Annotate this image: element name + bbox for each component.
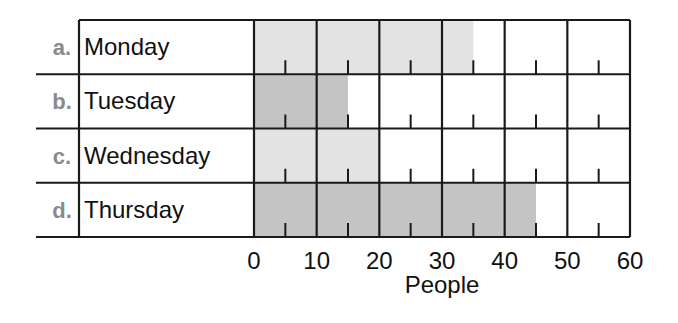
- row-letter: a.: [53, 35, 71, 60]
- x-tick-label: 20: [366, 247, 393, 274]
- bar-monday: [254, 20, 473, 74]
- row-letter: c.: [53, 144, 71, 169]
- people-by-day-bar-chart: a.Mondayb.Tuesdayc.Wednesdayd.Thursday 0…: [0, 0, 678, 323]
- bar-tuesday: [254, 74, 348, 128]
- row-label-wednesday: Wednesday: [84, 142, 210, 169]
- x-tick-label: 40: [491, 247, 518, 274]
- row-letter: b.: [52, 89, 72, 114]
- row-label-thursday: Thursday: [84, 196, 184, 223]
- x-tick-label: 60: [617, 247, 644, 274]
- row-label-tuesday: Tuesday: [84, 87, 175, 114]
- x-axis-label: People: [405, 271, 480, 298]
- x-tick-label: 30: [429, 247, 456, 274]
- bar-thursday: [254, 183, 536, 237]
- x-tick-label: 0: [247, 247, 260, 274]
- row-label-monday: Monday: [84, 33, 169, 60]
- x-tick-label: 10: [303, 247, 330, 274]
- row-letter: d.: [52, 198, 72, 223]
- x-tick-label: 50: [554, 247, 581, 274]
- x-tick-labels-layer: 0102030405060: [247, 247, 643, 274]
